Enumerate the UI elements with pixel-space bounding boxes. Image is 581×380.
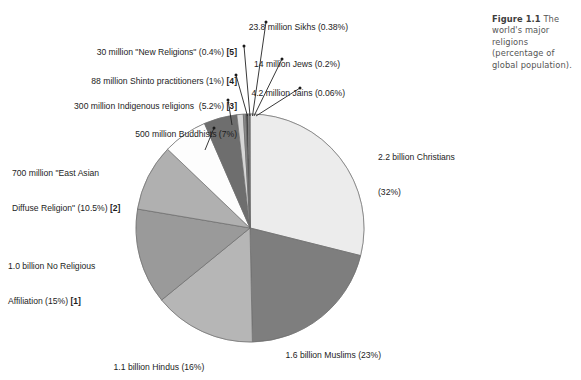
- label-jews-text: 14 million Jews (0.2%): [254, 59, 340, 69]
- label-indigenous-religions-footnote: [3]: [226, 101, 237, 111]
- label-sikhs-text: 23.8 million Sikhs (0.38%): [249, 22, 348, 32]
- label-no-religious-affiliation-line2: Affiliation (15%) [1]: [8, 296, 137, 308]
- label-east-asian-line1: 700 million "East Asian: [12, 168, 137, 180]
- label-no-religious-affiliation: 1.0 billion No Religious Affiliation (15…: [8, 238, 137, 330]
- label-east-asian-line2: Diffuse Religion" (10.5%) [2]: [12, 203, 137, 215]
- label-no-religious-affiliation-line1: 1.0 billion No Religious: [8, 261, 137, 273]
- label-no-religious-affiliation-line2-text: Affiliation (15%): [8, 296, 70, 306]
- figure-caption: Figure 1.1 The world's major religions (…: [492, 14, 578, 71]
- label-christians-line1: 2.2 billion Christians: [378, 152, 506, 164]
- label-buddhists-text: 500 million Buddhists (7%): [135, 129, 237, 139]
- label-jains-text: 4.2 million Jains (0.06%): [251, 88, 345, 98]
- figure-caption-label: Figure 1.1: [492, 14, 541, 24]
- label-muslims: 1.6 billion Muslims (23%): [276, 338, 446, 373]
- label-east-asian: 700 million "East Asian Diffuse Religion…: [12, 145, 137, 237]
- figure-pie-chart: Figure 1.1 The world's major religions (…: [0, 0, 581, 380]
- label-muslims-text: 1.6 billion Muslims (23%): [286, 350, 382, 360]
- label-east-asian-line2-text: Diffuse Religion" (10.5%): [12, 203, 110, 213]
- label-indigenous-religions-text: 300 million Indigenous religions (5.2%): [74, 101, 226, 111]
- label-hindus-text: 1.1 billion Hindus (16%): [114, 362, 205, 372]
- label-no-religious-affiliation-footnote: [1]: [70, 296, 81, 306]
- label-hindus: 1.1 billion Hindus (16%): [104, 350, 264, 380]
- label-christians-line2: (32%): [378, 187, 506, 199]
- label-christians: 2.2 billion Christians (32%): [378, 129, 506, 221]
- label-east-asian-footnote: [2]: [110, 203, 121, 213]
